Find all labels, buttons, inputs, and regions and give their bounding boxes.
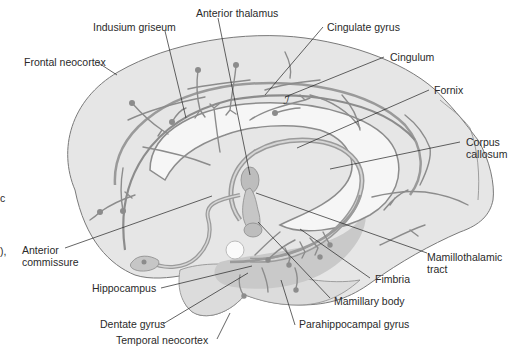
- label-anterior-thalamus: Anterior thalamus: [196, 7, 278, 19]
- label-corpus-callosum-line1: Corpus: [466, 136, 500, 148]
- label-parahippocampal-gyrus: Parahippocampal gyrus: [299, 318, 409, 330]
- cropped-text-fragment: ),: [0, 245, 6, 257]
- olfactory-node: [142, 260, 147, 265]
- limbic-system-diagram: ℐ: [0, 0, 525, 359]
- label-mamillary-body: Mamillary body: [334, 295, 405, 307]
- label-mamillothalamic-tract-line2: tract: [427, 263, 447, 275]
- label-dentate-gyrus: Dentate gyrus: [100, 318, 165, 330]
- label-frontal-neocortex: Frontal neocortex: [24, 56, 106, 68]
- label-corpus-callosum-line2: callosum: [466, 148, 507, 160]
- label-fornix: Fornix: [434, 84, 463, 96]
- label-mamillothalamic-tract-line1: Mamillothalamic: [427, 251, 502, 263]
- mamillary-body: [244, 223, 262, 237]
- label-hippocampus: Hippocampus: [92, 282, 156, 294]
- cropped-text-fragment: c: [0, 192, 5, 204]
- label-cingulum: Cingulum: [390, 51, 434, 63]
- label-anterior-commissure-line2: commissure: [22, 256, 79, 268]
- label-cingulate-gyrus: Cingulate gyrus: [327, 21, 400, 33]
- label-indusium-griseum: Indusium griseum: [93, 21, 176, 33]
- label-fimbria: Fimbria: [375, 273, 410, 285]
- label-temporal-neocortex: Temporal neocortex: [116, 334, 208, 346]
- label-anterior-commissure-line1: Anterior: [22, 244, 59, 256]
- optic-region: [226, 241, 244, 259]
